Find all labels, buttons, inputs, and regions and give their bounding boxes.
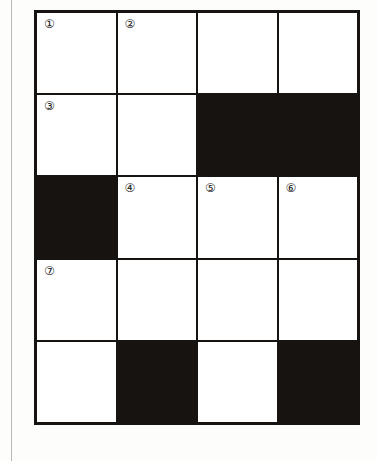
grid-cell-open[interactable]: ①	[37, 13, 116, 93]
grid-cell-open[interactable]	[198, 342, 277, 422]
cell-number-label: ⑤	[202, 180, 219, 197]
grid-cell-open[interactable]	[198, 13, 277, 93]
grid-cell-block	[279, 95, 358, 175]
grid-cell-block	[279, 342, 358, 422]
grid-cell-open[interactable]: ④	[118, 177, 197, 257]
grid-cell-open[interactable]: ③	[37, 95, 116, 175]
grid-cell-open[interactable]: ⑥	[279, 177, 358, 257]
cell-number-label: ⑥	[283, 180, 300, 197]
crossword-grid: ①②③④⑤⑥⑦	[34, 10, 360, 425]
grid-cell-block	[118, 342, 197, 422]
cell-number-label: ①	[41, 16, 58, 33]
grid-cell-open[interactable]	[198, 260, 277, 340]
cell-number-label: ⑦	[41, 263, 58, 280]
cell-number-label: ②	[122, 16, 139, 33]
grid-cell-open[interactable]	[279, 13, 358, 93]
grid-cell-open[interactable]	[279, 260, 358, 340]
cell-number-label: ④	[122, 180, 139, 197]
grid-cell-open[interactable]: ⑤	[198, 177, 277, 257]
grid-cell-open[interactable]	[37, 342, 116, 422]
cell-number-label: ③	[41, 98, 58, 115]
grid-cell-open[interactable]	[118, 260, 197, 340]
grid-cell-open[interactable]	[118, 95, 197, 175]
grid-cell-block	[198, 95, 277, 175]
grid-cell-block	[37, 177, 116, 257]
grid-cell-open[interactable]: ②	[118, 13, 197, 93]
grid-cell-open[interactable]: ⑦	[37, 260, 116, 340]
page-margin-rule	[11, 0, 12, 461]
